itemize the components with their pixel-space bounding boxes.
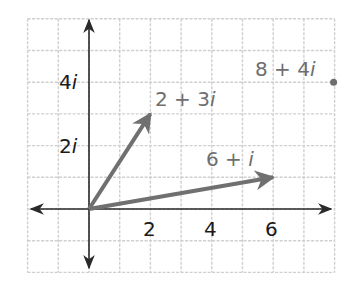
complex-plane-plot	[0, 0, 351, 291]
imag-tick-label-2i: 2i	[59, 136, 77, 156]
real-tick-label-2: 2	[143, 219, 156, 239]
point-label-8-plus-4i: 8 + 4i	[255, 59, 316, 79]
real-tick-label-6: 6	[265, 219, 278, 239]
imag-tick-label-4i: 4i	[59, 72, 77, 92]
real-tick-label-4: 4	[204, 219, 217, 239]
complex-plane-diagram: 2 4 6 4i 2i 2 + 3i 6 + i 8 + 4i	[0, 0, 351, 291]
vector-label-2-plus-3i: 2 + 3i	[155, 89, 216, 109]
points	[330, 79, 337, 86]
vector-label-6-plus-i: 6 + i	[206, 149, 254, 169]
point-dot	[330, 79, 337, 86]
